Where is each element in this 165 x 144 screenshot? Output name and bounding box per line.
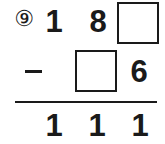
result-divider-line [15,101,157,103]
problem-number: ⑨ [13,7,35,31]
minuend-ones-answer-box[interactable] [117,2,159,44]
subtrahend-ones-digit: 6 [127,56,151,87]
minus-sign [25,70,42,73]
minuend-tens-digit: 8 [86,6,110,37]
subtrahend-tens-answer-box[interactable] [75,50,117,92]
minuend-hundreds-digit: 1 [42,6,66,37]
result-tens-digit: 1 [85,110,109,141]
result-ones-digit: 1 [128,110,152,141]
result-hundreds-digit: 1 [42,110,66,141]
